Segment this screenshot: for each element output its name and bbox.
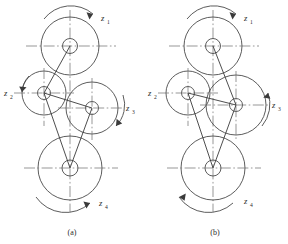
axis-label-z3-a: z 3: [125, 103, 135, 115]
label-z1-sub: 1: [107, 19, 110, 25]
z4-arrowhead: [179, 194, 186, 201]
label-z1-letter: z: [100, 13, 105, 23]
label-z3-sub: 3: [278, 106, 281, 112]
label-z1-sub: 1: [250, 19, 253, 25]
panel-b-caption: (b): [210, 228, 220, 237]
label-z4-sub: 4: [105, 204, 108, 210]
axis-label-z1-b: z 1: [243, 13, 253, 25]
gear-train-diagram: z 1 z 2 z 3 z 4 (a): [0, 0, 288, 244]
axis-label-z4-b: z 4: [243, 196, 253, 208]
label-z3-letter: z: [125, 103, 130, 113]
rotation-indicator-z2-a: [19, 76, 29, 92]
arm-z2-to-z4: [188, 93, 213, 168]
z3-arrowhead: [116, 119, 122, 126]
panel-a-caption: (a): [68, 228, 77, 237]
label-z4-sub: 4: [250, 202, 253, 208]
label-z4-letter: z: [98, 198, 103, 208]
rotation-indicator-z4-b: [179, 194, 233, 213]
rotation-indicator-z3-b: [262, 93, 270, 126]
label-z3-letter: z: [271, 100, 276, 110]
arm-z2-to-z3: [188, 93, 236, 105]
arm-z3-to-z4: [70, 108, 92, 168]
label-z4-letter: z: [243, 196, 248, 206]
panel-b: z 1 z 2 z 3 z 4 (b): [147, 6, 281, 237]
gear-z3-right-b: [200, 71, 268, 140]
label-z2-letter: z: [147, 88, 152, 98]
z2-arrowhead: [19, 86, 26, 92]
label-z2-sub: 2: [154, 94, 157, 100]
arm-z2-to-z3: [44, 93, 92, 108]
figure-container: z 1 z 2 z 3 z 4 (a): [0, 0, 288, 244]
gear-z2-left-a: [14, 68, 74, 126]
axis-label-z3-b: z 3: [271, 100, 281, 112]
axis-label-z2-a: z 2: [3, 88, 13, 100]
panel-a: z 1 z 2 z 3 z 4 (a): [3, 6, 135, 237]
label-z1-letter: z: [243, 13, 248, 23]
label-z2-letter: z: [3, 88, 8, 98]
gear-z4-bottom-b: [167, 136, 261, 200]
arm-z2-to-z1: [44, 46, 70, 93]
label-z3-sub: 3: [132, 109, 135, 115]
rotation-indicator-z3-a: [116, 95, 125, 126]
gear-z3-right-a: [58, 78, 122, 140]
gear-z1-top-a: [26, 17, 116, 75]
carrier-arms-b: [188, 46, 236, 168]
gear-z1-top-b: [169, 17, 259, 75]
label-z2-sub: 2: [10, 94, 13, 100]
axis-label-z1-a: z 1: [100, 13, 110, 25]
axis-label-z2-b: z 2: [147, 88, 157, 100]
gear-z4-bottom-a: [24, 136, 118, 200]
axis-label-z4-a: z 4: [98, 198, 108, 210]
carrier-arms-a: [44, 46, 92, 168]
